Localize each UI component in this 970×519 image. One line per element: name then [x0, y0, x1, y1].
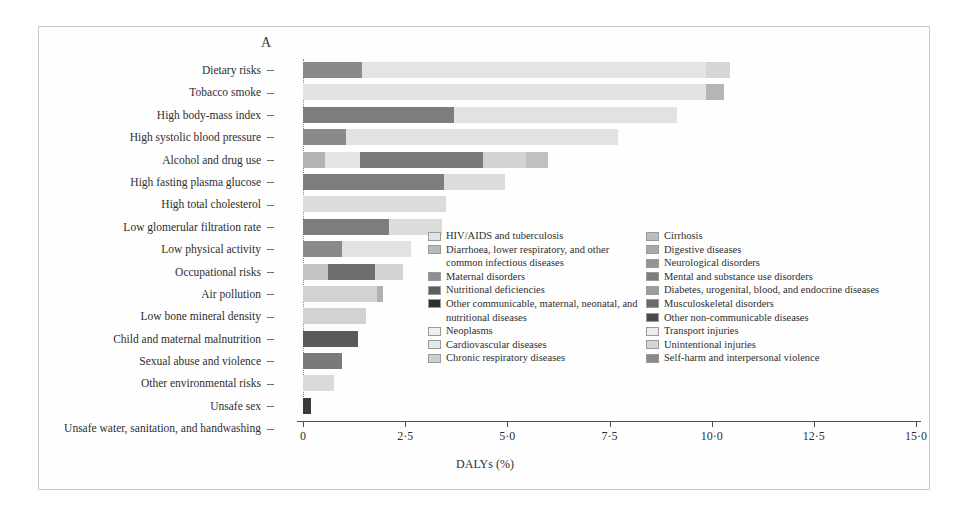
legend: HIV/AIDS and tuberculosisDiarrhoea, lowe…: [427, 229, 919, 365]
bar-segment[interactable]: [303, 353, 342, 369]
legend-swatch: [646, 232, 659, 241]
legend-item[interactable]: Chronic respiratory diseases: [427, 351, 645, 365]
bar-segment[interactable]: [706, 62, 731, 78]
stacked-bar[interactable]: [303, 174, 505, 190]
legend-item[interactable]: Maternal disorders: [427, 270, 645, 284]
bar-segment[interactable]: [362, 62, 705, 78]
legend-item[interactable]: Cirrhosis: [645, 229, 919, 243]
bar-row[interactable]: [303, 372, 916, 394]
stacked-bar[interactable]: [303, 353, 342, 369]
legend-label: Other communicable, maternal, neonatal, …: [446, 298, 638, 323]
bar-segment[interactable]: [346, 129, 618, 145]
stacked-bar[interactable]: [303, 129, 618, 145]
bar-segment[interactable]: [342, 241, 411, 257]
bar-row[interactable]: [303, 395, 916, 417]
bar-segment[interactable]: [444, 174, 505, 190]
legend-label: Mental and substance use disorders: [664, 271, 813, 282]
stacked-bar[interactable]: [303, 286, 383, 302]
bar-segment[interactable]: [303, 398, 311, 414]
bar-segment[interactable]: [706, 84, 724, 100]
bar-row[interactable]: [303, 171, 916, 193]
legend-item[interactable]: Unintentional injuries: [645, 338, 919, 352]
y-axis-label: Other environmental risks: [39, 372, 267, 394]
bar-row[interactable]: [303, 104, 916, 126]
legend-swatch: [646, 327, 659, 336]
stacked-bar[interactable]: [303, 196, 446, 212]
bar-segment[interactable]: [325, 152, 360, 168]
legend-item[interactable]: Nutritional deficiencies: [427, 283, 645, 297]
stacked-bar[interactable]: [303, 375, 334, 391]
bar-segment[interactable]: [303, 241, 342, 257]
legend-swatch: [428, 232, 441, 241]
bar-segment[interactable]: [303, 196, 446, 212]
legend-swatch: [646, 245, 659, 254]
bar-segment[interactable]: [454, 107, 677, 123]
stacked-bar[interactable]: [303, 331, 358, 347]
stacked-bar[interactable]: [303, 107, 677, 123]
legend-swatch: [646, 313, 659, 322]
y-axis-tick: [267, 272, 274, 273]
bar-segment[interactable]: [375, 264, 404, 280]
bar-segment[interactable]: [303, 174, 444, 190]
legend-label: Chronic respiratory diseases: [446, 352, 565, 363]
legend-item[interactable]: Mental and substance use disorders: [645, 270, 919, 284]
bar-row[interactable]: [303, 193, 916, 215]
legend-swatch: [646, 259, 659, 268]
bar-segment[interactable]: [303, 286, 377, 302]
legend-item[interactable]: Transport injuries: [645, 324, 919, 338]
bar-row[interactable]: [303, 59, 916, 81]
legend-item[interactable]: Other non-communicable diseases: [645, 311, 919, 325]
bar-segment[interactable]: [303, 264, 328, 280]
stacked-bar[interactable]: [303, 62, 730, 78]
legend-item[interactable]: Self-harm and interpersonal violence: [645, 351, 919, 365]
stacked-bar[interactable]: [303, 219, 442, 235]
bar-segment[interactable]: [526, 152, 548, 168]
bar-segment[interactable]: [360, 152, 483, 168]
legend-item[interactable]: Other communicable, maternal, neonatal, …: [427, 297, 645, 324]
y-axis-tick: [267, 429, 274, 430]
x-axis-tick-label: 12·5: [803, 429, 825, 444]
bar-segment[interactable]: [303, 375, 334, 391]
legend-item[interactable]: Cardiovascular diseases: [427, 338, 645, 352]
legend-item[interactable]: Digestive diseases: [645, 243, 919, 257]
legend-item[interactable]: Diarrhoea, lower respiratory, and other …: [427, 243, 645, 270]
legend-label: Nutritional deficiencies: [446, 284, 545, 295]
legend-item[interactable]: Neoplasms: [427, 324, 645, 338]
y-axis-label: High fasting plasma glucose: [39, 171, 267, 193]
legend-item[interactable]: Diabetes, urogenital, blood, and endocri…: [645, 283, 919, 297]
stacked-bar[interactable]: [303, 264, 403, 280]
bar-segment[interactable]: [303, 107, 454, 123]
y-axis-tick: [267, 70, 274, 71]
legend-label: Other non-communicable diseases: [664, 312, 809, 323]
bar-segment[interactable]: [328, 264, 375, 280]
bar-segment[interactable]: [377, 286, 383, 302]
bar-segment[interactable]: [303, 129, 346, 145]
bar-segment[interactable]: [303, 308, 366, 324]
legend-swatch: [646, 299, 659, 308]
bar-segment[interactable]: [303, 331, 358, 347]
bar-segment[interactable]: [303, 152, 325, 168]
legend-item[interactable]: HIV/AIDS and tuberculosis: [427, 229, 645, 243]
stacked-bar[interactable]: [303, 308, 366, 324]
legend-label: Neoplasms: [446, 325, 493, 336]
bar-segment[interactable]: [303, 84, 706, 100]
y-axis-tick: [267, 93, 274, 94]
legend-item[interactable]: Neurological disorders: [645, 256, 919, 270]
bar-segment[interactable]: [303, 219, 389, 235]
bar-row[interactable]: [303, 81, 916, 103]
stacked-bar[interactable]: [303, 398, 311, 414]
x-axis-tick-label: 7·5: [602, 429, 618, 444]
legend-swatch: [428, 354, 441, 363]
legend-swatch: [428, 299, 441, 308]
y-axis-label: Low physical activity: [39, 238, 267, 260]
bar-segment[interactable]: [303, 62, 362, 78]
stacked-bar[interactable]: [303, 152, 548, 168]
stacked-bar[interactable]: [303, 84, 724, 100]
bar-row[interactable]: [303, 126, 916, 148]
legend-item[interactable]: Musculoskeletal disorders: [645, 297, 919, 311]
stacked-bar[interactable]: [303, 241, 411, 257]
y-axis-label: Dietary risks: [39, 59, 267, 81]
bar-row[interactable]: [303, 149, 916, 171]
bar-segment[interactable]: [483, 152, 526, 168]
legend-column-right: CirrhosisDigestive diseasesNeurological …: [645, 229, 919, 365]
